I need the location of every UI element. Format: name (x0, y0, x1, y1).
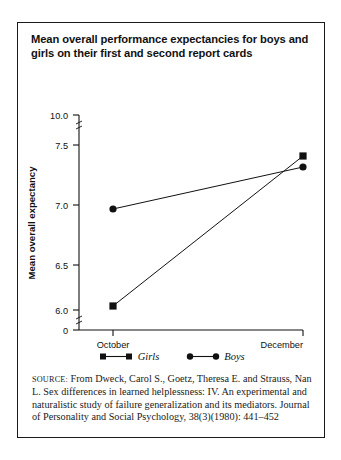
legend-marker-square-icon (99, 351, 133, 362)
source-label: Source: (32, 375, 68, 384)
series-line-girls (113, 156, 303, 306)
y-tick-label-4: 6.0 (55, 306, 68, 316)
y-tick-label-3: 6.5 (55, 261, 68, 271)
data-point-girls-december (299, 152, 306, 159)
legend-entry-boys: Boys (186, 347, 245, 364)
data-point-boys-october (109, 205, 116, 212)
legend-entry-girls: Girls (99, 347, 164, 364)
chart-plot-area: 10.0 7.5 7.0 6.5 6.0 0 Mean overall expe… (18, 78, 325, 353)
legend-label-boys: Boys (224, 351, 244, 362)
figure-container: Mean overall performance expectancies fo… (17, 22, 325, 438)
line-chart-svg: 10.0 7.5 7.0 6.5 6.0 0 Mean overall expe… (18, 78, 325, 353)
legend-label-girls: Girls (138, 351, 160, 362)
y-tick-label-2: 7.0 (55, 201, 68, 211)
y-tick-label-1: 7.5 (55, 141, 68, 151)
figure-title: Mean overall performance expectancies fo… (31, 32, 313, 60)
legend-marker-circle-icon (186, 351, 220, 362)
chart-legend: Girls Boys (18, 347, 325, 365)
y-tick-label-0: 10.0 (50, 111, 68, 121)
y-axis-title: Mean overall expectancy (26, 166, 37, 280)
data-point-boys-december (299, 163, 306, 170)
y-tick-label-5: 0 (63, 326, 68, 336)
source-text: From Dweck, Carol S., Goetz, Theresa E. … (32, 373, 312, 422)
source-citation: Source: From Dweck, Carol S., Goetz, The… (32, 373, 314, 424)
data-point-girls-october (109, 302, 116, 309)
series-line-boys (113, 167, 303, 209)
